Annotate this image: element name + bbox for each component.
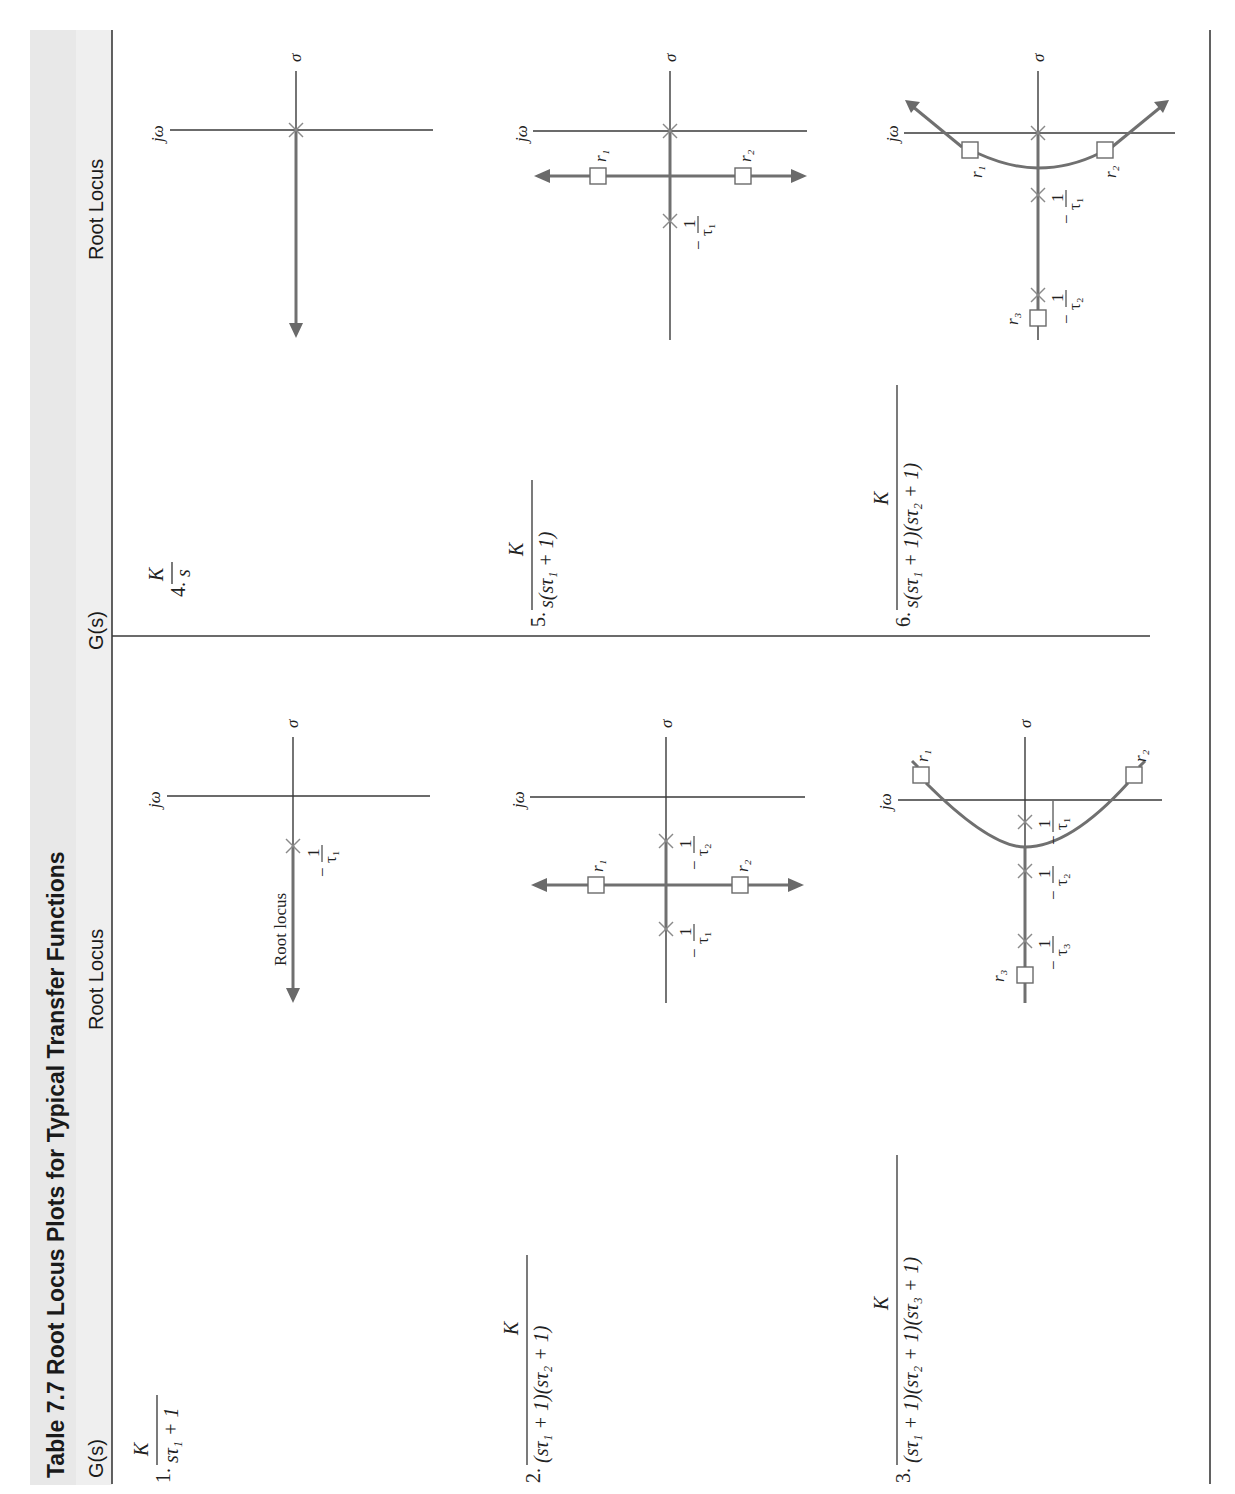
root-label-r3: r₃ [989,969,1008,982]
frac-den: τ₁ [1065,197,1084,210]
root-square-icon [735,168,751,184]
root-label-r1: r₁ [967,165,986,178]
root-label-r2: r₂ [736,149,755,162]
arrow-icon [289,323,303,338]
root-label-r2: r₂ [1101,165,1120,178]
root-locus-plot-2: jω σ r₁ r₂ 1 τ₂ − 1 τ₁ − [509,719,805,1003]
denominator: sτ₁ + 1 [160,1408,182,1463]
transfer-function-6: 6. K s(sτ₁ + 1)(sτ₂ + 1) [870,385,923,627]
root-locus-plot-1: jω σ 1 τ₁ − Root locus [145,719,430,1003]
frac-den: τ₁ [321,850,340,863]
minus-sign: − [689,240,708,250]
root-label-r3: r₃ [1003,312,1022,325]
frac-den: τ₃ [1052,943,1071,956]
root-square-icon [590,168,606,184]
numerator: K [500,1320,522,1336]
sigma-label: σ [657,719,676,728]
denominator: s(sτ₁ + 1)(sτ₂ + 1) [900,462,923,608]
frac-den: τ₂ [1052,873,1071,886]
root-square-icon [913,767,929,783]
row-number: 5. [527,612,549,627]
sigma-label: σ [286,53,305,62]
minus-sign: − [313,867,332,877]
minus-sign: − [1044,960,1063,970]
frac-den: τ₂ [1065,297,1084,310]
row-number: 4. [167,582,189,597]
denominator: (sτ₁ + 1)(sτ₂ + 1)(sτ₃ + 1) [900,1257,923,1463]
jw-label: jω [145,791,164,810]
numerator: K [145,566,167,582]
col-header-rootlocus-right: Root Locus [85,159,107,260]
root-label-r1: r₁ [913,749,932,762]
frac-den: τ₂ [693,843,712,856]
jw-label: jω [509,791,528,810]
col-header-gs-right: G(s) [85,611,107,650]
jw-label: jω [148,125,167,144]
root-locus-plot-4: jω σ [148,53,433,338]
minus-sign: − [1057,314,1076,324]
numerator: K [130,1441,152,1457]
sigma-label: σ [283,719,302,728]
transfer-function-1: 1. K sτ₁ + 1 [130,1395,182,1483]
row-number: 6. [892,612,914,627]
transfer-function-5: 5. K s(sτ₁ + 1) [505,480,558,627]
arrow-icon [788,878,804,892]
root-label-r2: r₂ [1131,749,1150,762]
root-square-icon [1097,142,1113,158]
minus-sign: − [1044,835,1063,845]
sigma-label: σ [1029,53,1048,62]
root-label-r1: r₁ [588,859,607,872]
rotated-table-page: Table 7.7 Root Locus Plots for Typical T… [0,0,1235,1494]
transfer-function-3: 3. K (sτ₁ + 1)(sτ₂ + 1)(sτ₃ + 1) [870,1155,923,1483]
root-label-r1: r₁ [591,149,610,162]
transfer-function-4: 4. K s [145,562,194,597]
root-square-icon [588,877,604,893]
arrow-icon [286,988,300,1003]
minus-sign: − [1057,214,1076,224]
transfer-function-2: 2. K (sτ₁ + 1)(sτ₂ + 1) [500,1255,553,1483]
arrow-icon [791,169,807,183]
frac-den: τ₁ [693,931,712,944]
col-header-gs-left: G(s) [85,1439,107,1478]
denominator: s [172,569,194,577]
root-square-icon [1030,310,1046,326]
sigma-label: σ [1016,719,1035,728]
denominator: s(sτ₁ + 1) [535,531,558,608]
minus-sign: − [685,860,704,870]
denominator: (sτ₁ + 1)(sτ₂ + 1) [530,1325,553,1463]
root-locus-annotation: Root locus [271,893,290,966]
sigma-label: σ [661,53,680,62]
root-square-icon [732,877,748,893]
numerator: K [870,1295,892,1311]
root-locus-plot-3: jω σ r₁ r₂ r₃ 1 τ₁ − 1 τ₂ − 1 τ₃ − [876,719,1162,1003]
frac-den: τ₁ [697,223,716,236]
root-label-r2: r₂ [733,859,752,872]
numerator: K [505,541,527,557]
root-square-icon [962,142,978,158]
jw-label: jω [883,125,902,144]
minus-sign: − [685,948,704,958]
minus-sign: − [1044,890,1063,900]
root-locus-plot-5: jω σ r₁ r₂ 1 τ₁ − [512,53,807,340]
root-square-icon [1126,767,1142,783]
arrow-icon [531,878,547,892]
row-number: 2. [522,1468,544,1483]
arrow-icon [534,169,550,183]
table-title: Table 7.7 Root Locus Plots for Typical T… [43,851,69,1478]
col-header-rootlocus-left: Root Locus [85,929,107,1030]
numerator: K [870,490,892,506]
root-square-icon [1017,967,1033,983]
row-number: 1. [152,1468,174,1483]
jw-label: jω [876,793,895,812]
root-locus-plot-6: jω σ r₁ r₂ r₃ 1 τ₁ − 1 τ₂ − [883,53,1175,340]
row-number: 3. [892,1468,914,1483]
frac-den: τ₁ [1052,817,1071,830]
jw-label: jω [512,125,531,144]
